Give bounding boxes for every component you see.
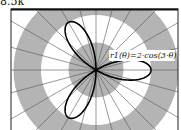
polar-plot: r1(θ)=2·cos(3·θ) [0,0,181,130]
curve-annotation: r1(θ)=2·cos(3·θ) [110,51,176,60]
